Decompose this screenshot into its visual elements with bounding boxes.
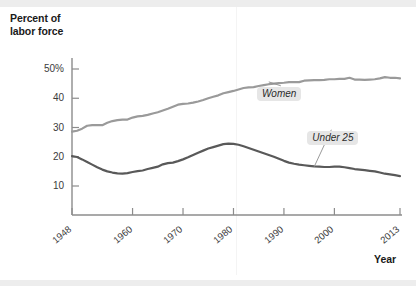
y-tick-label-40: 40 xyxy=(30,92,64,103)
series-line-women xyxy=(72,77,400,131)
series-annotation-under-25: Under 25 xyxy=(307,131,358,145)
y-tick-label-30: 30 xyxy=(30,122,64,133)
y-tick-label-20: 20 xyxy=(30,151,64,162)
chart-figure: Percent of labor force Year 1020304050% … xyxy=(0,0,416,286)
series-line-under-25 xyxy=(72,144,400,176)
y-tick-label-50%: 50% xyxy=(30,63,64,74)
y-tick-label-10: 10 xyxy=(30,180,64,191)
series-annotation-women: Women xyxy=(257,87,301,101)
series-group xyxy=(72,77,400,176)
